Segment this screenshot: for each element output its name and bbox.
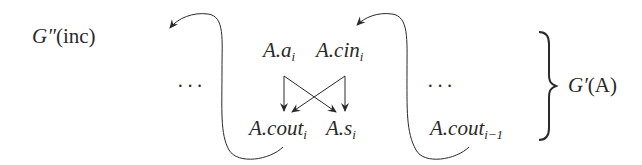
node-cout-i-minus-1: A.couti−1 — [430, 118, 503, 141]
brace-shape — [539, 32, 556, 140]
graph-label-inc-arg: (inc) — [56, 24, 96, 48]
graph-label-inc-base: G″ — [32, 24, 56, 48]
ellipsis-left: ··· — [177, 76, 206, 96]
node-a-i: A.ai — [263, 40, 295, 63]
ellipsis-right: ··· — [427, 76, 456, 96]
node-cout-i: A.couti — [249, 118, 307, 141]
graph-label-a-base: G′ — [568, 73, 588, 97]
edges-layer — [0, 0, 642, 165]
edge-a-to-s — [284, 76, 336, 112]
graph-label-a-arg: (A) — [588, 73, 617, 97]
node-s-i: A.si — [326, 118, 356, 141]
edge-cin-to-cout — [292, 76, 345, 112]
dependency-diagram: G″(inc) ··· ··· A.ai A.cini A.couti A.si… — [0, 0, 642, 165]
graph-label-a: G′(A) — [568, 75, 617, 96]
graph-label-inc: G″(inc) — [32, 26, 96, 47]
node-cin-i: A.cini — [316, 40, 363, 63]
